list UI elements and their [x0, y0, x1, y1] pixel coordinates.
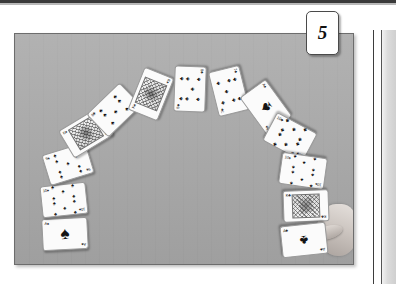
card-pip: ♠ [61, 189, 64, 195]
card-pip: ♣ [272, 141, 278, 148]
card-pip: ♠ [313, 156, 317, 162]
page-number-badge: 5 [306, 11, 339, 55]
card-pip: ♣ [116, 98, 122, 104]
card-pip: ♠ [74, 210, 77, 216]
card-corner-index: K♠ [62, 130, 68, 136]
page-rule-inner [373, 30, 374, 284]
card-pip: ♠ [72, 199, 75, 205]
card-pip: ♣ [231, 77, 237, 82]
page-number-text: 5 [318, 22, 328, 44]
card-pip: ♣ [195, 97, 201, 101]
card-pip: ♠ [53, 201, 56, 207]
card-pip: ♠ [71, 182, 74, 188]
card-pip: ♠ [54, 212, 57, 218]
card-corner-index-mirrored: K♣ [286, 194, 291, 198]
card-corner-index: 7♣ [220, 108, 225, 113]
card-pip: ♠ [63, 205, 66, 211]
card-center-pip: ♠ [42, 218, 88, 250]
card-pip-grid: ♣♣♣♣♣♣♣ [178, 74, 201, 105]
card-center-pip: ♣ [281, 223, 328, 257]
card-pip-grid: ♠♠♠♠♠♠♠♠♠♠ [48, 187, 80, 212]
card-pip: ♠ [311, 167, 315, 173]
card-pip-grid: ♣♣♣♣♣♣♣♣♣♣ [272, 120, 309, 154]
card-pip: ♠ [289, 180, 293, 186]
card-pip: ♣ [220, 100, 226, 105]
card-pip: ♠ [59, 174, 63, 180]
card-corner-index-mirrored: 9♠ [86, 167, 91, 172]
card-pip: ♣ [280, 127, 286, 134]
playing-card-king-of-clubs: K♣K♣ [282, 189, 329, 223]
card-pip: ♣ [215, 81, 221, 86]
card-pip: ♣ [283, 141, 289, 148]
card-pip: ♠ [302, 160, 306, 166]
card-pip-grid: ♠♠♠♠♠♠♠♠♠♠ [287, 158, 320, 184]
card-pip: ♠ [300, 176, 304, 182]
card-pip: ♠ [55, 159, 59, 165]
playing-card-ten-of-spades-2: 10♠10♠♠♠♠♠♠♠♠♠♠♠ [278, 152, 328, 190]
playing-card-ten-of-spades: 10♠10♠♠♠♠♠♠♠♠♠♠♠ [39, 182, 88, 219]
page-gutter-shade [382, 30, 396, 284]
card-pip: ♣ [109, 120, 115, 126]
card-pip: ♣ [113, 109, 119, 115]
book-page: A♠A♠♠10♠10♠♠♠♠♠♠♠♠♠♠♠9♠9♠♠♠♠♠♠♠♠♠♠K♠K♠8♣… [0, 0, 396, 284]
card-pip: ♠ [293, 153, 297, 159]
court-card-artwork [292, 194, 321, 219]
card-corner-index: 8♣ [176, 104, 180, 109]
card-arc-photograph: A♠A♠♠10♠10♠♠♠♠♠♠♠♠♠♠♠9♠9♠♠♠♠♠♠♠♠♠♠K♠K♠8♣… [14, 33, 354, 265]
card-pip: ♠ [79, 169, 83, 175]
card-corner-index-mirrored: K♠ [165, 79, 170, 85]
court-card-artwork [135, 77, 168, 112]
card-pip: ♣ [223, 89, 229, 94]
playing-card-eight-of-clubs-2: 8♣8♣♣♣♣♣♣♣♣ [173, 65, 207, 112]
card-pip: ♠ [292, 164, 296, 170]
card-pip: ♣ [196, 77, 202, 81]
card-pip: ♣ [190, 87, 196, 91]
scan-edge-bar-light [0, 3, 396, 5]
card-corner-index-mirrored: 8♣ [200, 69, 204, 74]
page-rule-outer [381, 30, 382, 284]
playing-card-ace-of-spades: A♠A♠♠ [41, 217, 89, 251]
card-pip: ♣ [185, 77, 191, 81]
playing-card-ace-of-clubs: A♣A♣♣ [279, 222, 328, 259]
card-pip: ♠ [309, 183, 313, 189]
card-pip: ♣ [297, 136, 303, 143]
card-pip: ♣ [291, 126, 297, 133]
card-pip: ♣ [102, 112, 108, 118]
card-pip-grid: ♣♣♣♣♣♣♣ [215, 74, 244, 108]
card-pip: ♠ [66, 161, 70, 167]
card-pip: ♣ [302, 126, 308, 133]
card-corner-index: K♠ [131, 104, 136, 110]
card-corner-index: K♣ [321, 214, 326, 218]
card-pip: ♣ [285, 117, 291, 124]
card-pip: ♣ [184, 97, 190, 101]
